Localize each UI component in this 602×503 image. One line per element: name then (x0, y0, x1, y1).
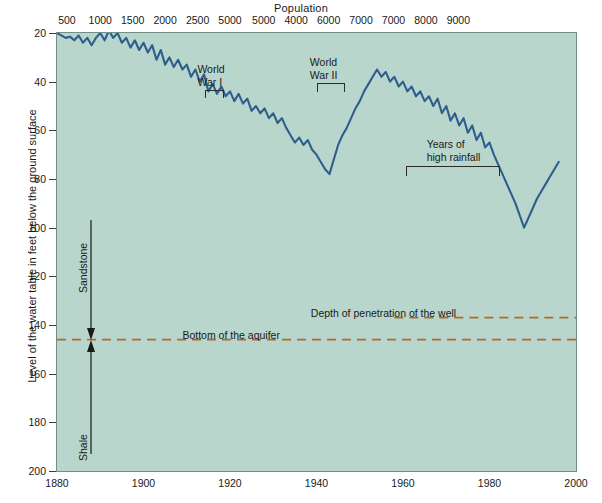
top-axis-tick-label: 2000 (153, 14, 176, 26)
y-axis-tick-label: 20 (4, 27, 46, 39)
y-axis-tick-label: 100 (4, 222, 46, 234)
x-axis-tick-label: 1980 (478, 477, 501, 489)
chart-figure: Population Level of the water table in f… (0, 0, 602, 503)
ww1-bracket (205, 90, 224, 98)
y-axis-tick-mark (49, 33, 56, 34)
top-axis-tick-label: 1000 (89, 14, 112, 26)
plot-panel: World War I World War II Years of high r… (56, 32, 577, 472)
x-axis-tick-label: 1900 (132, 477, 155, 489)
aquifer-bottom-label: Bottom of the aquifer (182, 329, 279, 342)
y-axis-tick-label: 140 (4, 319, 46, 331)
rainfall-bracket (406, 166, 501, 176)
annotation-world-war-one: World War I (197, 63, 224, 88)
ww2-label-line1: World (310, 56, 338, 69)
y-axis-tick-mark (49, 276, 56, 277)
y-axis-tick-mark (49, 374, 56, 375)
y-axis-tick-mark (49, 82, 56, 83)
y-axis-tick-mark (49, 325, 56, 326)
rain-label-line2: high rainfall (427, 151, 481, 164)
annotation-years-high-rainfall: Years of high rainfall (427, 138, 481, 163)
top-axis-tick-label: 7000 (349, 14, 372, 26)
y-axis-title: Level of the water table in feet below t… (26, 106, 38, 386)
annotation-world-war-two: World War II (310, 56, 338, 81)
top-axis-tick-label: 8000 (414, 14, 437, 26)
water-table-line (57, 33, 559, 228)
y-axis-tick-label: 120 (4, 270, 46, 282)
y-axis-tick-label: 60 (4, 124, 46, 136)
top-axis-tick-label: 1500 (121, 14, 144, 26)
reference-lines-group (57, 318, 576, 340)
y-axis-tick-label: 80 (4, 173, 46, 185)
water-table-line-chart (57, 33, 576, 471)
y-axis-tick-mark (49, 228, 56, 229)
arrow-down-icon (87, 328, 95, 340)
top-axis-tick-label: 4000 (284, 14, 307, 26)
y-axis-tick-label: 200 (4, 465, 46, 477)
plot-area: World War I World War II Years of high r… (57, 33, 576, 471)
top-axis-title: Population (0, 2, 602, 14)
ww2-bracket (317, 83, 346, 92)
y-axis-tick-mark (49, 471, 56, 472)
y-axis-tick-label: 40 (4, 76, 46, 88)
x-axis-tick-label: 1960 (391, 477, 414, 489)
ww1-label-line2: War I (197, 76, 224, 89)
top-axis-tick-label: 9000 (447, 14, 470, 26)
strata-arrows (71, 212, 111, 462)
x-axis-tick-label: 2000 (564, 477, 587, 489)
top-axis-tick-label: 6000 (317, 14, 340, 26)
y-axis-tick-mark (49, 130, 56, 131)
y-axis-tick-mark (49, 422, 56, 423)
top-axis-tick-label: 2500 (186, 14, 209, 26)
top-axis-tick-label: 500 (58, 14, 76, 26)
top-axis-tick-label: 7000 (382, 14, 405, 26)
y-axis-tick-label: 180 (4, 416, 46, 428)
ww1-label-line1: World (197, 63, 224, 76)
x-axis-tick-label: 1880 (45, 477, 68, 489)
arrow-up-icon (87, 340, 95, 352)
top-axis-tick-label: 5000 (218, 14, 241, 26)
x-axis-tick-label: 1940 (305, 477, 328, 489)
y-axis-tick-mark (49, 179, 56, 180)
ww2-label-line2: War II (310, 69, 338, 82)
well-depth-label: Depth of penetration of the well (311, 307, 456, 320)
y-axis-tick-label: 160 (4, 368, 46, 380)
x-axis-tick-label: 1920 (218, 477, 241, 489)
top-axis-tick-label: 5000 (252, 14, 275, 26)
rain-label-line1: Years of (427, 138, 481, 151)
